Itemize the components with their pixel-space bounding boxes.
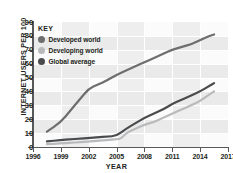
- legend-title: KEY: [38, 25, 120, 32]
- x-tick-mark: [89, 148, 90, 152]
- chart-figure: 90 80 70 60 50 40 30 20 10 0 1996 1999 2…: [0, 0, 233, 173]
- y-axis-title: INTERNET USERS PER 100: [19, 3, 28, 131]
- x-tick-label-1999: 1999: [48, 153, 74, 160]
- series-line-global-average: [47, 83, 214, 141]
- legend-item-label: Global average: [49, 58, 96, 65]
- x-tick-mark: [61, 148, 62, 152]
- x-tick-label-2008: 2008: [131, 153, 157, 160]
- x-tick-label-2014: 2014: [187, 153, 213, 160]
- top-crop-strip: [0, 0, 233, 5]
- legend-item-global-average[interactable]: Global average: [38, 56, 120, 66]
- legend-item-developed-world[interactable]: Developed world: [38, 34, 120, 44]
- chart-legend: KEY Developed world Developing world Glo…: [38, 25, 120, 67]
- x-tick-mark: [228, 148, 229, 152]
- legend-item-label: Developed world: [49, 36, 101, 43]
- x-tick-mark: [200, 148, 201, 152]
- x-tick-label-1996: 1996: [20, 153, 46, 160]
- x-tick-mark: [117, 148, 118, 152]
- x-tick-label-2005: 2005: [104, 153, 130, 160]
- legend-item-label: Developing world: [49, 47, 103, 54]
- x-axis-title: YEAR: [0, 162, 233, 171]
- y-tick-label-0: 0: [13, 144, 33, 152]
- x-tick-label-2011: 2011: [159, 153, 185, 160]
- x-tick-label-2002: 2002: [76, 153, 102, 160]
- legend-swatch-icon: [38, 58, 45, 65]
- x-tick-mark: [33, 148, 34, 152]
- y-tick-label-10: 10: [13, 130, 33, 138]
- x-tick-mark: [144, 148, 145, 152]
- legend-swatch-icon: [38, 36, 45, 43]
- x-tick-label-2017: 2017: [215, 153, 233, 160]
- series-line-developing-world: [47, 91, 214, 144]
- legend-swatch-icon: [38, 47, 45, 54]
- legend-item-developing-world[interactable]: Developing world: [38, 45, 120, 55]
- x-tick-mark: [172, 148, 173, 152]
